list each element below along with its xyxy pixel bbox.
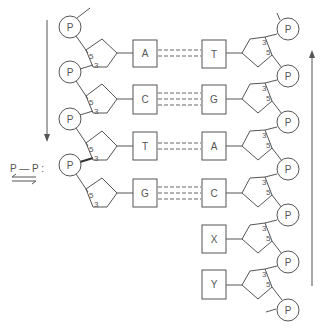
svg-text:P: P	[285, 71, 292, 82]
right-strand: T G A C X Y 3 5 3 5 3 5 3 5	[202, 13, 299, 321]
base-box: A	[202, 132, 226, 160]
svg-text:5: 5	[89, 145, 94, 154]
phosphate-node: P	[277, 204, 299, 226]
base-box: T	[202, 40, 226, 68]
svg-text:P: P	[67, 67, 74, 78]
phosphate-node: P	[277, 299, 299, 321]
phosphate-node: P	[277, 65, 299, 87]
svg-text:P: P	[285, 257, 292, 268]
phosphate-node: P	[277, 158, 299, 180]
svg-text:T: T	[211, 49, 217, 60]
right-direction-arrow	[309, 50, 315, 286]
base-box: A	[133, 40, 157, 67]
base-box: G	[133, 179, 157, 207]
svg-text:P: P	[67, 114, 74, 125]
phosphate-node: P	[59, 16, 81, 38]
phosphate-node: P	[277, 251, 299, 273]
svg-text:P: P	[285, 164, 292, 175]
svg-text:3: 3	[262, 38, 267, 47]
legend: P — P :	[10, 163, 44, 184]
hydrogen-bonds	[158, 50, 201, 199]
base-box: X	[202, 225, 226, 253]
base-box: Y	[202, 270, 226, 299]
svg-text:3: 3	[262, 84, 267, 93]
svg-text:Y: Y	[211, 279, 218, 290]
legend-text: P — P :	[10, 163, 44, 174]
svg-text:3: 3	[94, 154, 99, 163]
svg-text:5: 5	[266, 188, 271, 197]
sugar-pentagon: 5 3	[86, 131, 133, 163]
svg-text:5: 5	[266, 141, 271, 150]
base-box: C	[202, 179, 226, 207]
sugar-pentagon: 5 3	[86, 39, 133, 70]
svg-text:5: 5	[266, 94, 271, 103]
phosphate-node: P	[277, 111, 299, 133]
base-box: T	[133, 132, 157, 160]
svg-text:P: P	[285, 117, 292, 128]
svg-text:3: 3	[262, 270, 267, 279]
sugar-pentagon: 5 3	[86, 178, 133, 209]
sugar-pentagon: 5 3	[86, 84, 133, 116]
phosphate-node: P	[277, 18, 299, 40]
dna-diagram: P — P : P P P P 5 3 5	[0, 0, 323, 333]
base-box: G	[202, 85, 226, 114]
svg-text:X: X	[211, 234, 218, 245]
sugar-pentagon: 3 5	[226, 223, 272, 253]
svg-text:P: P	[67, 160, 74, 171]
left-strand: P P P P 5 3 5 3 5 3 5 3 A	[59, 8, 157, 209]
phosphate-node: P	[59, 154, 81, 176]
svg-text:3: 3	[94, 107, 99, 116]
svg-text:C: C	[141, 94, 148, 105]
phosphate-node: P	[59, 61, 81, 83]
svg-text:T: T	[142, 141, 148, 152]
svg-text:P: P	[67, 22, 74, 33]
left-direction-arrow	[44, 20, 50, 142]
sugar-pentagon: 3 5	[226, 37, 272, 67]
svg-text:A: A	[142, 48, 149, 59]
svg-text:5: 5	[89, 52, 94, 61]
phosphate-node: P	[59, 108, 81, 130]
svg-text:P: P	[285, 305, 292, 316]
svg-text:3: 3	[262, 131, 267, 140]
sugar-pentagon: 3 5	[226, 83, 272, 113]
svg-text:5: 5	[266, 280, 271, 289]
svg-text:G: G	[141, 188, 149, 199]
sugar-pentagon: 3 5	[226, 130, 272, 160]
sugar-pentagon: 3 5	[226, 269, 272, 299]
svg-text:G: G	[210, 94, 218, 105]
svg-text:5: 5	[89, 191, 94, 200]
equilibrium-arrows-icon	[12, 174, 36, 184]
svg-text:P: P	[285, 24, 292, 35]
sugar-pentagon: 3 5	[226, 177, 272, 207]
svg-text:5: 5	[89, 98, 94, 107]
svg-text:3: 3	[262, 178, 267, 187]
svg-text:C: C	[210, 188, 217, 199]
svg-text:3: 3	[262, 224, 267, 233]
svg-text:5: 5	[266, 234, 271, 243]
svg-text:A: A	[211, 141, 218, 152]
svg-text:3: 3	[94, 200, 99, 209]
svg-text:3: 3	[94, 61, 99, 70]
base-box: C	[133, 85, 157, 114]
svg-text:P: P	[285, 210, 292, 221]
svg-text:5: 5	[266, 48, 271, 57]
